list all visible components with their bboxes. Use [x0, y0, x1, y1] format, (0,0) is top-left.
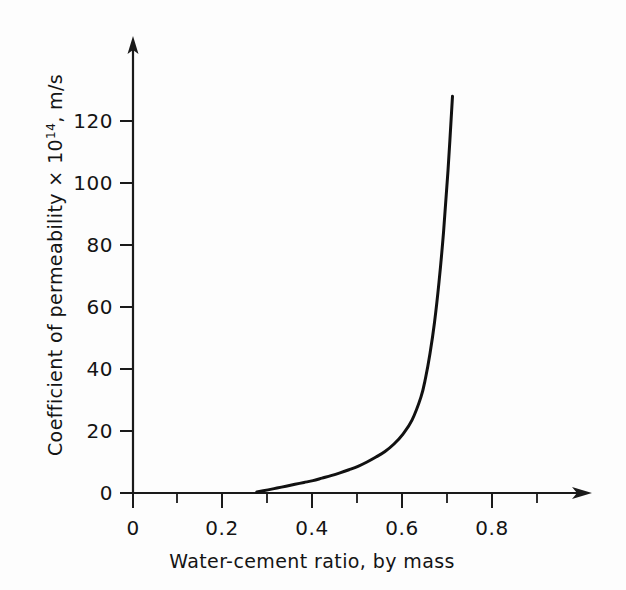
y-axis-title-exponent: 14 [44, 123, 58, 139]
x-tick-label: 0.4 [295, 516, 328, 540]
y-tick-label: 0 [100, 481, 113, 505]
y-axis-ticks [120, 121, 133, 493]
x-axis-ticks [133, 493, 537, 508]
x-tick-label: 0.2 [205, 516, 238, 540]
y-tick-label: 40 [87, 357, 113, 381]
y-tick-label: 80 [87, 233, 113, 257]
y-tick-label: 20 [87, 419, 113, 443]
y-axis-title-main: Coefficient of permeability × 10 [44, 139, 66, 456]
permeability-vs-water-cement-ratio-figure: 0 20 40 60 80 100 120 0 0.2 0.4 0.6 0.8 … [0, 0, 626, 590]
x-axis-title: Water-cement ratio, by mass [169, 550, 455, 572]
y-axis-title-tail: , m/s [44, 74, 66, 123]
y-axis-title: Coefficient of permeability × 1014, m/s [44, 74, 66, 456]
y-tick-label: 100 [73, 171, 113, 195]
x-tick-labels: 0 0.2 0.4 0.6 0.8 [126, 516, 508, 540]
permeability-curve [257, 96, 453, 492]
x-tick-label: 0.6 [385, 516, 418, 540]
y-tick-label: 120 [73, 109, 113, 133]
x-tick-label: 0 [126, 516, 139, 540]
svg-text:Coefficient of permeability ×: Coefficient of permeability × 1014, m/s [44, 74, 66, 456]
y-tick-label: 60 [87, 295, 113, 319]
y-tick-labels: 0 20 40 60 80 100 120 [73, 109, 113, 505]
chart-canvas: 0 20 40 60 80 100 120 0 0.2 0.4 0.6 0.8 … [0, 0, 626, 590]
x-tick-label: 0.8 [475, 516, 508, 540]
